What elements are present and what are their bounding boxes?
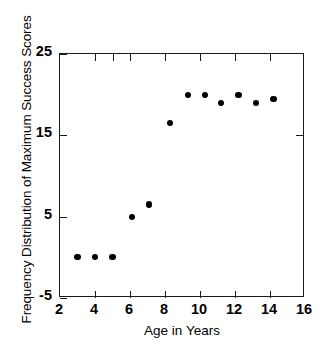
x-axis-tick [130,291,131,298]
y-axis-title: Frequency Distribution of Maximum Succes… [19,24,34,324]
x-axis-tick-top-extra [113,54,114,61]
scatter-point [270,96,276,102]
x-axis-tick-label: 2 [44,301,74,317]
scatter-point [92,254,98,260]
scatter-point [235,92,241,98]
x-axis-tick [270,291,271,298]
x-axis-tick-label: 14 [254,301,284,317]
y-axis-tick-label: 15 [12,124,52,140]
x-axis-tick-label: 8 [149,301,179,317]
x-axis-tick-label: 6 [114,301,144,317]
x-axis-tick-label: 4 [79,301,109,317]
scatter-point [185,92,191,98]
scatter-point [253,100,259,106]
plot-area [59,53,304,297]
x-axis-tick [95,291,96,298]
scatter-point [129,214,135,220]
y-axis-tick-label: 5 [12,206,52,222]
x-axis-tick [200,291,201,298]
x-axis-tick [165,291,166,298]
y-axis-tick [60,135,67,136]
scatter-point [218,100,224,106]
y-axis-tick [60,54,67,55]
scatter-point [109,254,115,260]
y-axis-tick-right [296,135,303,136]
y-axis-tick [60,298,67,299]
x-axis-tick-top [165,54,166,61]
scatter-point [167,120,173,126]
x-axis-tick-top [235,54,236,61]
x-axis-tick-top [95,54,96,61]
x-axis-tick-top [270,54,271,61]
scatter-point [146,201,152,207]
x-axis-tick-top [130,54,131,61]
y-axis-tick-label: 25 [12,43,52,59]
scatter-point [74,254,80,260]
scatter-chart-figure: Frequency Distribution of Maximum Succes… [0,0,327,355]
x-axis-tick-top [200,54,201,61]
x-axis-tick-label: 12 [219,301,249,317]
y-axis-tick [60,217,67,218]
x-axis-tick [235,291,236,298]
scatter-point [202,92,208,98]
x-axis-tick-label: 16 [289,301,319,317]
x-axis-title: Age in Years [59,323,305,338]
x-axis-tick-label: 10 [184,301,214,317]
